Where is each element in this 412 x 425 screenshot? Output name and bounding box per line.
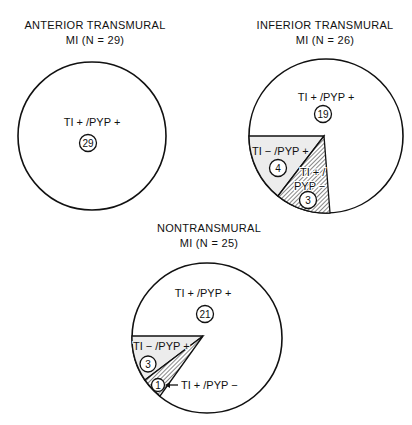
nontransmural-label-tineg-pyppos: TI − /PYP + (133, 340, 190, 352)
pie-charts: TI + /PYP + 29 TI + /PYP + 19 TI − /PYP … (0, 0, 412, 425)
inferior-count-tipos-pyppos: 19 (317, 109, 329, 120)
inferior-label-tipos-pypneg-1: TI + / (300, 166, 326, 178)
inferior-label-tipos-pyppos: TI + /PYP + (298, 91, 355, 103)
inferior-pie: TI + /PYP + 19 TI − /PYP + 4 TI + / PYP … (249, 59, 403, 213)
anterior-count-tipos-pyppos: 29 (82, 138, 94, 149)
nontransmural-count-tipos-pyppos: 21 (199, 309, 211, 320)
inferior-label-tipos-pypneg-2: PYP − (294, 180, 325, 192)
nontransmural-label-tipos-pyppos: TI + /PYP + (175, 287, 232, 299)
inferior-count-tipos-pypneg: 3 (305, 195, 311, 206)
nontransmural-label-tipos-pypneg: TI + /PYP − (181, 379, 238, 391)
nontransmural-count-tipos-pypneg: 1 (155, 380, 161, 391)
anterior-label-tipos-pyppos: TI + /PYP + (64, 116, 121, 128)
anterior-pie: TI + /PYP + 29 (18, 62, 166, 210)
inferior-label-tineg-pyppos: TI − /PYP + (252, 145, 309, 157)
inferior-count-tineg-pyppos: 4 (275, 163, 281, 174)
nontransmural-pie: TI + /PYP + 21 TI − /PYP + 3 1 TI + /PYP… (132, 263, 282, 413)
nontransmural-count-tineg-pyppos: 3 (145, 359, 151, 370)
